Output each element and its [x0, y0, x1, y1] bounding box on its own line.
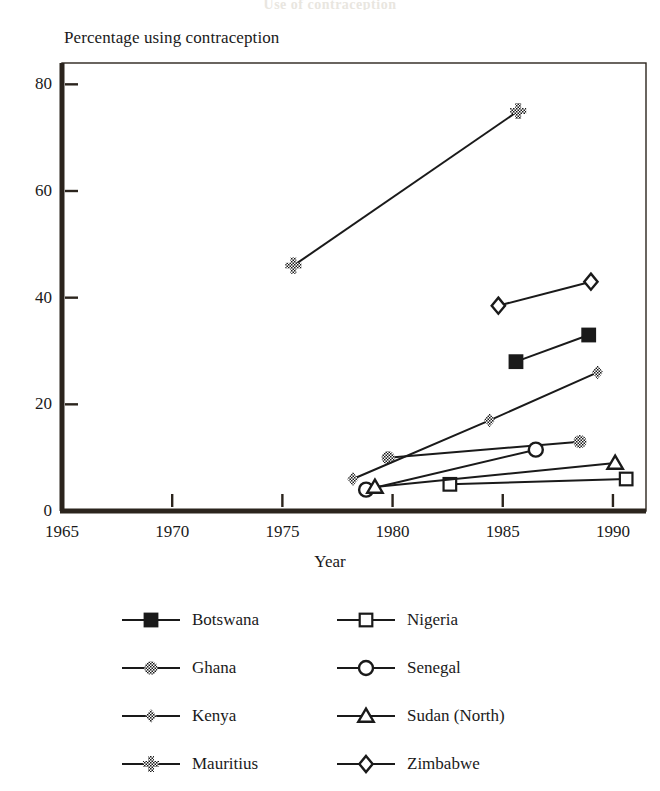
legend-marker-checkered-cross-icon — [120, 753, 182, 775]
legend-item[interactable]: Senegal — [335, 657, 550, 679]
y-tick-label: 20 — [6, 395, 52, 412]
plot-area — [0, 0, 660, 580]
x-tick-label: 1985 — [468, 523, 538, 540]
y-tick-label: 40 — [6, 289, 52, 306]
legend-label: Sudan (North) — [407, 706, 505, 726]
x-tick-label: 1975 — [247, 523, 317, 540]
legend-label: Mauritius — [192, 754, 258, 774]
legend-item[interactable]: Zimbabwe — [335, 753, 550, 775]
series-line — [516, 335, 589, 362]
chart-legend: BotswanaNigeriaGhanaSenegalKenyaSudan (N… — [120, 596, 550, 788]
legend-marker-checkered-diamond-icon — [120, 705, 182, 727]
legend-label: Ghana — [192, 658, 236, 678]
legend-marker-open-triangle-icon — [335, 705, 397, 727]
series-ghana — [382, 435, 587, 464]
x-tick-label: 1990 — [578, 523, 648, 540]
legend-label: Kenya — [192, 706, 236, 726]
legend-label: Botswana — [192, 610, 259, 630]
series-line — [293, 111, 518, 266]
legend-marker-open-square-icon — [335, 609, 397, 631]
y-tick-label: 80 — [6, 75, 52, 92]
data-point-marker — [492, 298, 505, 314]
legend-item[interactable]: Sudan (North) — [335, 705, 550, 727]
series-botswana — [509, 328, 595, 368]
data-point-marker — [607, 456, 622, 469]
x-tick-label: 1980 — [358, 523, 428, 540]
legend-item[interactable]: Nigeria — [335, 609, 550, 631]
data-point-marker — [592, 365, 603, 379]
legend-label: Senegal — [407, 658, 461, 678]
series-line — [388, 442, 580, 458]
series-zimbabwe — [492, 274, 598, 314]
data-point-marker — [584, 274, 597, 290]
legend-marker-checkered-circle-icon — [120, 657, 182, 679]
data-point-marker — [347, 472, 358, 486]
legend-label: Zimbabwe — [407, 754, 480, 774]
x-tick-label: 1965 — [27, 523, 97, 540]
data-point-marker — [620, 473, 633, 486]
data-point-marker — [510, 103, 526, 119]
legend-item[interactable]: Kenya — [120, 705, 335, 727]
x-tick-label: 1970 — [137, 523, 207, 540]
legend-item[interactable]: Mauritius — [120, 753, 335, 775]
data-point-marker — [484, 413, 495, 427]
data-point-marker — [285, 258, 301, 274]
legend-label: Nigeria — [407, 610, 458, 630]
line-chart-svg — [0, 0, 660, 580]
series-sudan-north — [367, 456, 623, 493]
legend-marker-filled-square-icon — [120, 609, 182, 631]
series-line — [450, 479, 626, 484]
legend-marker-open-diamond-icon — [335, 753, 397, 775]
x-axis-title: Year — [0, 552, 660, 572]
data-point-marker — [529, 443, 543, 457]
y-tick-label: 0 — [6, 502, 52, 519]
series-line — [498, 282, 591, 306]
y-tick-label: 60 — [6, 182, 52, 199]
legend-item[interactable]: Ghana — [120, 657, 335, 679]
legend-item[interactable]: Botswana — [120, 609, 335, 631]
chart-page: Use of contraception Percentage using co… — [0, 0, 660, 791]
series-nigeria — [444, 473, 633, 491]
data-point-marker — [573, 435, 586, 448]
data-point-marker — [582, 328, 595, 341]
data-point-marker — [509, 355, 522, 368]
legend-marker-open-circle-icon — [335, 657, 397, 679]
series-mauritius — [285, 103, 526, 274]
